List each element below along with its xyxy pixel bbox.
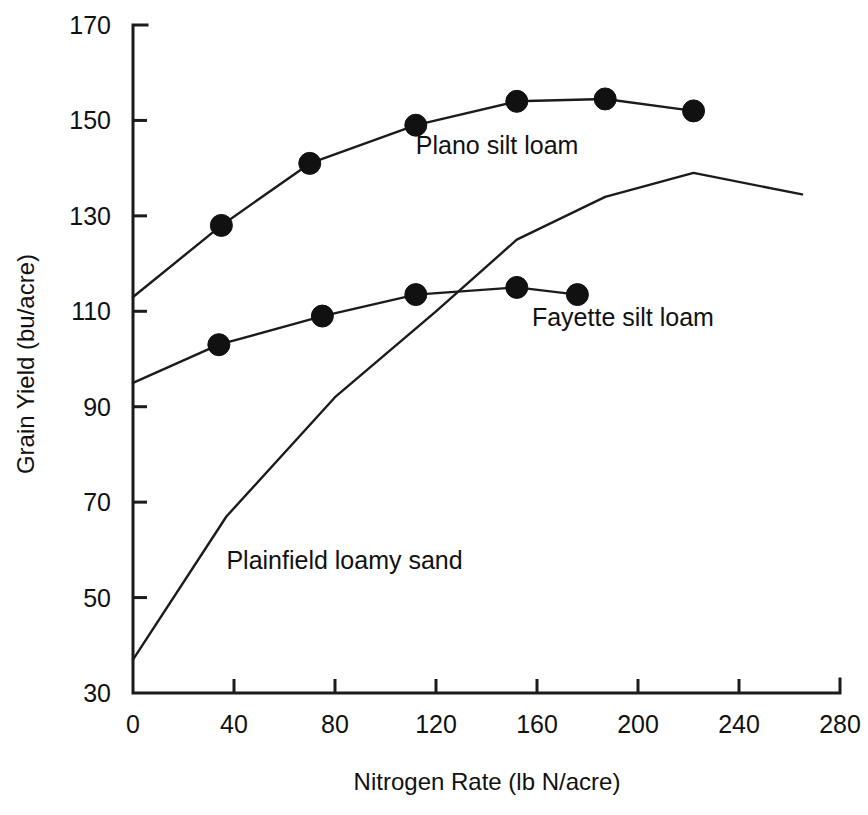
y-axis-tick-marks [133, 120, 147, 597]
chart-figure: 30507090110130150170 0408012016020024028… [0, 0, 868, 815]
x-tick-label: 200 [617, 710, 659, 738]
x-axis-tick-marks [234, 679, 739, 693]
y-tick-label: 90 [83, 393, 111, 421]
x-tick-label: 240 [718, 710, 760, 738]
x-axis-title: Nitrogen Rate (lb N/acre) [354, 768, 621, 795]
series-marker [405, 284, 427, 306]
y-tick-label: 170 [69, 11, 111, 39]
x-tick-label: 80 [321, 710, 349, 738]
x-axis-tick-labels: 04080120160200240280 [126, 710, 861, 738]
series-label: Plano silt loam [416, 131, 579, 159]
axis-lines [133, 25, 840, 693]
series-marker [683, 100, 705, 122]
y-tick-label: 50 [83, 584, 111, 612]
y-tick-label: 110 [71, 297, 111, 325]
x-tick-label: 120 [415, 710, 457, 738]
y-axis-title: Grain Yield (bu/acre) [12, 254, 39, 474]
series-line [133, 173, 802, 660]
chart-plot-area: 30507090110130150170 0408012016020024028… [0, 0, 868, 815]
x-tick-label: 40 [220, 710, 248, 738]
y-axis-tick-labels: 30507090110130150170 [69, 11, 111, 707]
axes-group [133, 25, 840, 693]
x-tick-label: 0 [126, 710, 140, 738]
series-marker [208, 334, 230, 356]
series-marker [506, 276, 528, 298]
series-marker [210, 214, 232, 236]
series-annotation-labels: Plano silt loamFayette silt loamPlainfie… [226, 131, 714, 574]
series-label: Plainfield loamy sand [226, 546, 462, 574]
series-line [133, 287, 577, 383]
y-tick-label: 70 [83, 488, 111, 516]
series-marker [311, 305, 333, 327]
series-label: Fayette silt loam [532, 303, 714, 331]
y-tick-label: 150 [69, 106, 111, 134]
x-tick-label: 160 [516, 710, 558, 738]
x-tick-label: 280 [819, 710, 861, 738]
series-marker [594, 88, 616, 110]
y-tick-label: 130 [69, 202, 111, 230]
y-tick-label: 30 [83, 679, 111, 707]
series-marker [299, 152, 321, 174]
series-marker [506, 90, 528, 112]
